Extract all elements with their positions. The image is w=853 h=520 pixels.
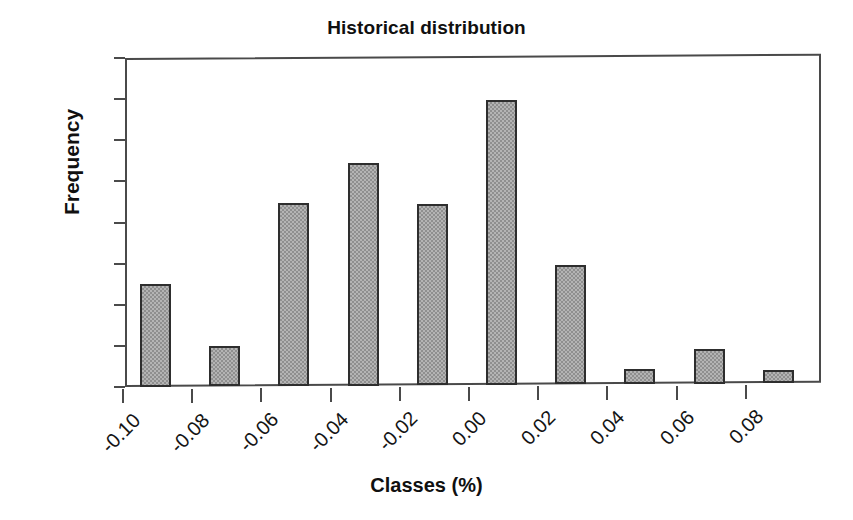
bar (278, 203, 309, 386)
bar (140, 284, 171, 387)
bar-series (0, 0, 853, 520)
bar (417, 204, 448, 385)
bar (763, 370, 794, 383)
bar (348, 163, 379, 386)
bar (555, 265, 586, 384)
bar (624, 369, 655, 384)
bar (486, 100, 517, 385)
histogram-figure: Historical distribution Frequency 024681… (0, 0, 853, 520)
bar (209, 346, 240, 386)
x-axis-title: Classes (%) (0, 474, 853, 497)
bar (694, 349, 725, 384)
